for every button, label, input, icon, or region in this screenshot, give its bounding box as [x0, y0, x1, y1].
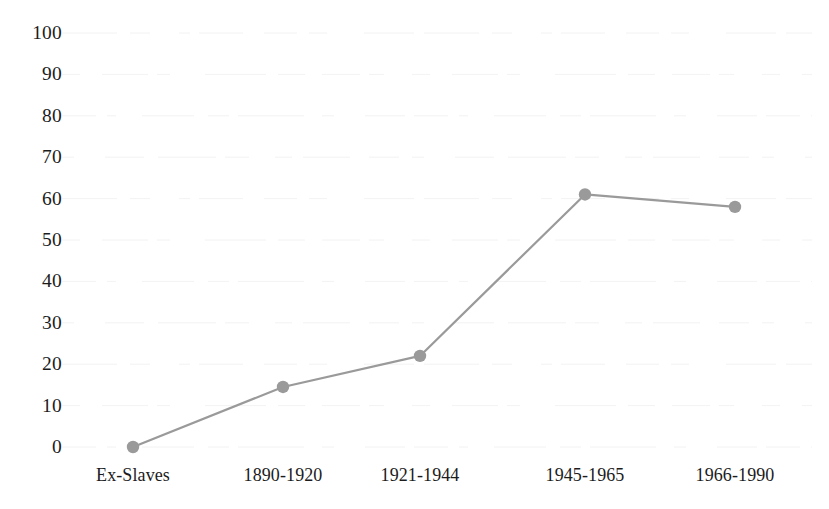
x-axis-tick-label: 1921-1944	[381, 466, 460, 484]
x-axis: Ex-Slaves1890-19201921-19441945-19651966…	[0, 0, 829, 509]
x-axis-tick-label: Ex-Slaves	[96, 466, 170, 484]
x-axis-tick-label: 1966-1990	[696, 466, 775, 484]
x-axis-tick-label: 1945-1965	[546, 466, 625, 484]
line-chart: 0102030405060708090100 Ex-Slaves1890-192…	[0, 0, 829, 509]
x-axis-tick-label: 1890-1920	[244, 466, 323, 484]
